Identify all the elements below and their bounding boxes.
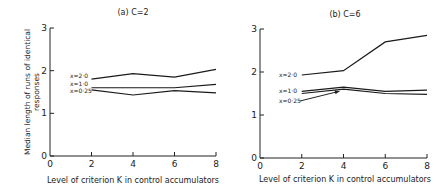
series-line bbox=[92, 69, 217, 79]
x-axis-label: Level of criterion K in control accumula… bbox=[47, 176, 219, 185]
series-line bbox=[302, 35, 427, 75]
series-line bbox=[302, 87, 427, 91]
x-tick-label: 0 bbox=[47, 159, 53, 169]
series-label: x=0·25 bbox=[279, 97, 301, 104]
series-label: x=1·0 bbox=[279, 87, 297, 94]
y-tick-label: 1 bbox=[41, 108, 47, 118]
x-axis-label: Level of criterion K in control accumula… bbox=[259, 175, 431, 184]
y-tick-label: 2 bbox=[41, 66, 47, 76]
series-label: x=2·0 bbox=[70, 72, 88, 79]
x-tick-label: 4 bbox=[130, 159, 136, 169]
series-line bbox=[92, 90, 217, 95]
y-tick-label: 1 bbox=[251, 110, 257, 120]
x-tick-label: 2 bbox=[299, 161, 305, 171]
x-tick-label: 0 bbox=[257, 161, 263, 171]
x-tick-label: 8 bbox=[213, 159, 219, 169]
x-tick-label: 6 bbox=[172, 159, 178, 169]
arrowhead-icon bbox=[335, 90, 340, 94]
series-label: x=0·25 bbox=[70, 87, 92, 94]
y-tick-label: 2 bbox=[251, 67, 257, 77]
panel-title: (a) C=2 bbox=[117, 8, 148, 17]
x-tick-label: 6 bbox=[382, 161, 388, 171]
x-tick-label: 4 bbox=[341, 161, 347, 171]
panel-title: (b) C=6 bbox=[329, 10, 360, 19]
x-tick-label: 8 bbox=[424, 161, 430, 171]
series-line bbox=[92, 84, 217, 87]
panel-b: 012302468(b) C=6Level of criterion K in … bbox=[251, 10, 431, 184]
series-label: x=2·0 bbox=[279, 71, 297, 78]
figure: 012302468(a) C=2Level of criterion K in … bbox=[0, 0, 448, 195]
series-label: x=1·0 bbox=[70, 80, 88, 87]
y-tick-label: 3 bbox=[251, 24, 257, 34]
panel-a: 012302468(a) C=2Level of criterion K in … bbox=[23, 8, 219, 185]
y-axis-label: Median length of runs of identicalrespon… bbox=[23, 29, 41, 155]
x-tick-label: 2 bbox=[89, 159, 95, 169]
y-tick-label: 3 bbox=[41, 23, 47, 33]
